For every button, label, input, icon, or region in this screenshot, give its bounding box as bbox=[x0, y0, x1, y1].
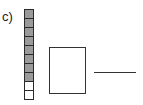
answer-line[interactable] bbox=[94, 72, 136, 73]
answer-box[interactable] bbox=[49, 47, 86, 94]
ten-column bbox=[24, 10, 34, 100]
problem-label: c) bbox=[2, 10, 13, 23]
ten-column-cell-empty bbox=[24, 90, 34, 100]
